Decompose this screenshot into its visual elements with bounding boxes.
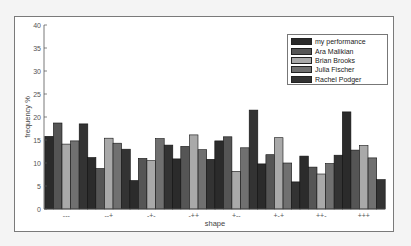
bar — [96, 169, 105, 210]
y-tick-label: 40 — [33, 22, 41, 29]
legend: my performanceAra MalikianBrian BrooksJu… — [287, 34, 388, 85]
x-tick-label: -++ — [189, 212, 200, 219]
bar — [198, 150, 207, 209]
x-axis-label: shape — [205, 219, 225, 228]
bar — [172, 159, 181, 209]
bar — [130, 181, 139, 210]
bar — [359, 146, 368, 210]
bar — [223, 137, 232, 209]
x-tick-label: +-+ — [274, 212, 285, 219]
x-tick-label: --- — [63, 212, 71, 219]
x-tick-label: +++ — [358, 212, 370, 219]
bar — [215, 141, 224, 209]
bar — [156, 139, 165, 209]
legend-label: Brian Brooks — [315, 57, 355, 64]
bar — [342, 112, 351, 209]
legend-item: Brian Brooks — [291, 56, 384, 65]
y-tick-label: 25 — [33, 91, 41, 98]
bars-group — [45, 110, 385, 209]
x-tick-label: ++- — [316, 212, 327, 219]
legend-label: Julia Fischer — [315, 66, 354, 73]
bar — [164, 145, 173, 209]
bar — [45, 136, 54, 209]
y-axis-label: frequency % — [23, 96, 32, 138]
bar — [241, 148, 250, 209]
bar — [274, 138, 283, 209]
bar — [257, 164, 266, 209]
legend-item: Rachel Podger — [291, 75, 384, 84]
bar — [249, 110, 258, 209]
bar — [79, 124, 88, 209]
legend-label: Ara Malikian — [315, 48, 354, 55]
legend-label: my performance — [315, 38, 366, 45]
bar — [266, 155, 275, 209]
y-tick-label: 5 — [37, 183, 41, 190]
bar — [87, 158, 96, 210]
legend-swatch — [291, 76, 312, 83]
legend-swatch — [291, 48, 312, 55]
bar — [138, 158, 147, 209]
bar — [105, 138, 114, 209]
x-tick-label: +-- — [232, 212, 241, 219]
y-tick-label: 20 — [33, 114, 41, 121]
bar — [181, 146, 190, 209]
bar — [232, 171, 241, 209]
bar — [71, 141, 80, 209]
bar — [351, 150, 360, 209]
bar — [207, 159, 216, 209]
y-tick-label: 35 — [33, 45, 41, 52]
legend-swatch — [291, 38, 312, 45]
legend-swatch — [291, 66, 312, 73]
bar — [122, 149, 131, 209]
bar — [62, 144, 71, 209]
y-tick-label: 15 — [33, 137, 41, 144]
bar — [308, 167, 317, 209]
bar — [317, 174, 326, 209]
x-tick-label: -+- — [147, 212, 156, 219]
y-tick-label: 30 — [33, 68, 41, 75]
bar — [189, 135, 198, 209]
bar — [113, 143, 122, 209]
bar — [368, 158, 377, 209]
legend-item: Ara Malikian — [291, 46, 384, 55]
legend-swatch — [291, 57, 312, 64]
bar — [377, 180, 386, 209]
x-tick-label: --+ — [104, 212, 113, 219]
y-tick-label: 0 — [37, 206, 41, 213]
legend-item: Julia Fischer — [291, 65, 384, 74]
bar — [147, 161, 156, 209]
bar — [334, 155, 343, 209]
legend-item: my performance — [291, 37, 384, 46]
bar — [292, 182, 301, 209]
bar — [283, 163, 292, 209]
legend-label: Rachel Podger — [315, 76, 361, 83]
bar — [53, 123, 62, 209]
y-tick-label: 10 — [33, 160, 41, 167]
bar — [300, 156, 309, 209]
bar — [326, 164, 335, 210]
